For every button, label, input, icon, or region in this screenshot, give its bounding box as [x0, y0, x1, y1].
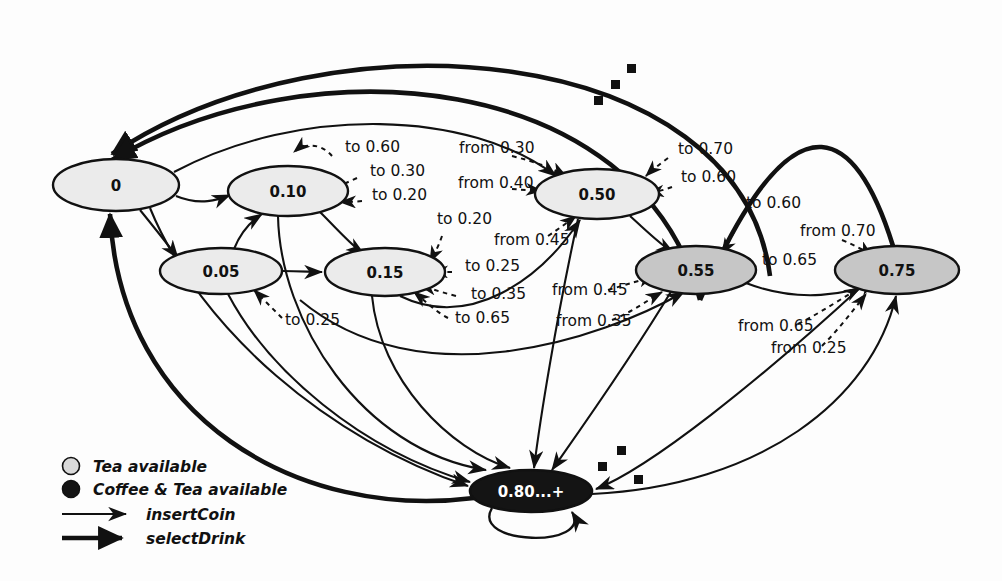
- state-label: 0.50: [578, 186, 615, 204]
- diagram-canvas: 00.050.100.150.500.550.750.80...+ to 0.6…: [0, 0, 1002, 581]
- state-node-0-10[interactable]: 0.10: [228, 166, 348, 216]
- edge-label-to-060: to 0.60: [746, 194, 801, 212]
- state-label: 0.10: [269, 183, 306, 201]
- state-label: 0.80...+: [498, 483, 565, 501]
- edge-0-to-005: [140, 210, 178, 258]
- edge-label-to-030: to 0.30: [370, 162, 425, 180]
- edge-050-to-final: [534, 219, 578, 468]
- edge-label-to-070: to 0.70: [678, 140, 733, 158]
- state-label: 0.05: [202, 263, 239, 281]
- state-label: 0.15: [366, 264, 403, 282]
- edge-label-from-045: from 0.45: [552, 281, 628, 299]
- state-label: 0.55: [677, 262, 714, 280]
- bottom-ellipsis-dot: [598, 462, 607, 471]
- edge-label-to-025: to 0.25: [465, 257, 520, 275]
- edge-label-to-065: to 0.65: [455, 309, 510, 327]
- state-node-0-50[interactable]: 0.50: [535, 169, 659, 219]
- edge-005-to-015: [282, 271, 322, 272]
- state-node-0-15[interactable]: 0.15: [325, 248, 445, 296]
- edge-0-to-010: [176, 195, 230, 201]
- legend-marker-coffee-tea-icon: [63, 481, 80, 498]
- state-label: 0: [111, 177, 121, 195]
- edge-label-from-025: from 0.25: [771, 339, 847, 357]
- state-node-0-05[interactable]: 0.05: [160, 248, 282, 294]
- edge-label-from-070: from 0.70: [800, 222, 876, 240]
- insertcoin-to-final: [150, 208, 862, 489]
- edge-label-from-030: from 0.30: [459, 139, 535, 157]
- top-ellipsis-dot: [627, 64, 636, 73]
- edge-label-to-020: to 0.20: [437, 210, 492, 228]
- legend-marker-tea-icon: [63, 458, 80, 475]
- legend-label-selectdrink: selectDrink: [146, 530, 247, 548]
- edge-label-to-060: to 0.60: [681, 168, 736, 186]
- state-node-0[interactable]: 0: [53, 159, 179, 211]
- edge-label-to-035: to 0.35: [471, 285, 526, 303]
- state-node-0-55[interactable]: 0.55: [636, 246, 756, 294]
- edge-label-from-035: from 0.35: [556, 312, 632, 330]
- edge-label-to-065: to 0.65: [762, 251, 817, 269]
- edge-005-to-010: [234, 214, 262, 249]
- bottom-ellipsis-dot: [634, 475, 643, 484]
- bottom-ellipsis-dot: [617, 446, 626, 455]
- edge-label-from-040: from 0.40: [458, 174, 534, 192]
- edge-label-from-045: from 0.45: [494, 231, 570, 249]
- state-node-0-80[interactable]: 0.80...+: [470, 470, 592, 512]
- edge-label-to-025: to 0.25: [285, 311, 340, 329]
- top-ellipsis-dot: [594, 96, 603, 105]
- top-ellipsis-dot: [611, 80, 620, 89]
- state-label: 0.75: [878, 262, 915, 280]
- state-node-0-75[interactable]: 0.75: [835, 246, 959, 294]
- legend-label-tea: Tea available: [93, 458, 207, 476]
- edge-label-to-020: to 0.20: [372, 186, 427, 204]
- edge-010-to-015: [320, 212, 364, 254]
- state-diagram: 00.050.100.150.500.550.750.80...+ to 0.6…: [0, 0, 1002, 581]
- edge-label-to-060: to 0.60: [345, 138, 400, 156]
- legend: Tea available Coffee & Tea available ins…: [62, 458, 287, 549]
- legend-label-insertcoin: insertCoin: [146, 506, 236, 524]
- edge-label-from-065: from 0.65: [738, 317, 814, 335]
- legend-label-coffee-tea: Coffee & Tea available: [93, 481, 287, 499]
